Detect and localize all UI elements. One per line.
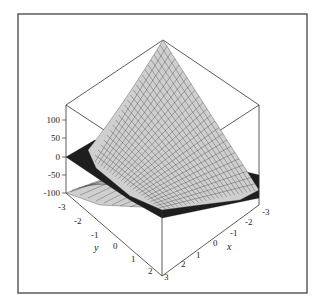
z-tick-100: 100 xyxy=(47,115,61,125)
z-tick-minus100: -100 xyxy=(44,188,61,198)
z-tick-50: 50 xyxy=(51,133,61,143)
y-tick: 0 xyxy=(113,241,118,251)
x-axis-title: x xyxy=(226,241,232,252)
y-tick: 2 xyxy=(148,266,153,276)
x-tick: 1 xyxy=(196,250,201,260)
y-tick: -3 xyxy=(58,202,66,212)
y-tick: -2 xyxy=(74,216,82,226)
y-tick: 1 xyxy=(131,254,136,264)
y-tick: -1 xyxy=(91,230,99,240)
x-tick: 2 xyxy=(181,259,186,269)
x-tick: 0 xyxy=(213,238,218,248)
z-tick-minus50: -50 xyxy=(48,170,60,180)
x-tick: -3 xyxy=(262,207,270,217)
x-tick: -1 xyxy=(230,228,238,238)
z-tick-0: 0 xyxy=(56,152,61,162)
surface-plot: 100 50 0 -50 -100 -3 -2 -1 0 1 2 y -3 -2… xyxy=(0,0,320,304)
x-tick: -2 xyxy=(245,217,253,227)
y-axis-title: y xyxy=(93,242,99,253)
x-tick: 3 xyxy=(164,272,169,282)
